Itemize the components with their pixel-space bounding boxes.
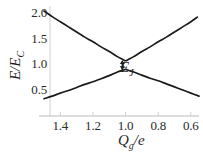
y-axis-title-main: E [7, 71, 23, 80]
y-tick-label: 1.0 [31, 56, 47, 72]
x-axis-tick-marks [60, 112, 191, 116]
y-axis-title-slash: / [7, 67, 23, 71]
x-tick-label: 0.8 [150, 118, 166, 134]
y-tick-label: 0.5 [31, 82, 47, 98]
x-axis-title: Qg/e [118, 132, 145, 151]
plot-area [0, 0, 203, 162]
energy-level-chart: 0.51.01.52.0 1.41.21.00.80.6 E/EC Qg/e E… [0, 0, 203, 162]
y-axis-title-subscript: C [15, 51, 26, 58]
x-axis-title-main: Q [118, 132, 129, 148]
x-tick-label: 0.6 [183, 118, 199, 134]
energy-gap-label-main: E [120, 59, 129, 75]
y-tick-label: 2.0 [31, 5, 47, 21]
x-axis-title-rest: /e [134, 132, 145, 148]
y-axis-title-second: E [7, 58, 23, 67]
upper-branch-curve [44, 11, 197, 61]
x-tick-label: 1.2 [85, 118, 101, 134]
energy-gap-label: EJ [120, 59, 134, 78]
energy-gap-label-subscript: J [129, 67, 133, 78]
x-tick-label: 1.4 [52, 118, 68, 134]
y-axis-title: E/EC [7, 36, 26, 96]
y-tick-label: 1.5 [31, 31, 47, 47]
